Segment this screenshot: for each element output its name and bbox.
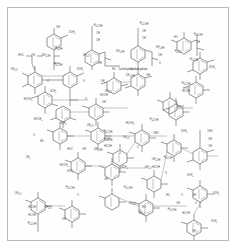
chemical-group-label: H2COH <box>104 137 113 142</box>
chemical-group-label: H2COH <box>140 21 149 26</box>
chemical-group-label: O <box>181 193 183 197</box>
chemical-group-label: H2COH <box>168 207 177 212</box>
chemical-group-label: OH <box>56 25 60 29</box>
chemical-group-label: CH <box>208 137 212 141</box>
aromatic-ring <box>187 220 201 236</box>
chemical-group-label: O <box>195 201 197 205</box>
chemical-group-label: HOCH2 <box>126 121 135 125</box>
chemical-group-label: CH <box>176 201 180 205</box>
aromatic-ring <box>167 140 181 156</box>
lignin-structure-diagram: OHOCH3CH2OHHOCCHCH2OHH2COHCH3OOCH3OOCH2O… <box>8 8 228 240</box>
aromatic-ring <box>56 106 70 122</box>
chemical-group-label: CH3O <box>129 201 136 206</box>
aromatic-ring <box>135 130 149 146</box>
aromatic-ring <box>38 92 52 108</box>
chemical-group-label: HCOH <box>104 144 112 148</box>
chemical-group-label: CH2OH <box>116 49 125 54</box>
chemical-group-label: OCH3 <box>77 67 84 71</box>
chemical-group-label: OCH3 <box>213 191 220 195</box>
aromatic-ring <box>169 104 183 120</box>
aromatic-ring <box>189 82 203 98</box>
chemical-group-label: HCOH <box>28 205 36 209</box>
aromatic-ring <box>131 46 145 62</box>
chemical-group-label: HCOH <box>182 211 190 215</box>
chemical-group-label: O <box>83 79 85 83</box>
chemical-group-label: CH <box>82 147 86 151</box>
chemical-group-label: HCOH <box>28 213 36 217</box>
chemical-group-label: CH3O <box>45 205 52 210</box>
chemical-group-label: CHO <box>207 129 213 133</box>
chemical-group-label: CH2OH <box>42 53 51 58</box>
figure-frame: OHOCH3CH2OHHOCCHCH2OHH2COHCH3OOCH3OOCH2O… <box>7 7 229 241</box>
chemical-group-label: H2COH <box>104 129 113 134</box>
chemical-group-label: CH2OH <box>94 147 103 152</box>
chemical-group-label: CH <box>196 40 200 44</box>
chemical-group-label: O <box>159 61 161 65</box>
carbohydrate-label: Carbohydrate <box>130 67 148 71</box>
chemical-group-label: OCH3 <box>50 89 57 93</box>
chemical-group-label: CH <box>208 144 212 148</box>
chemical-group-label: CH <box>192 193 196 197</box>
chemical-group-label: CH3O <box>83 53 90 58</box>
chemical-group-label: O <box>85 97 87 101</box>
chemical-group-label: O <box>165 171 167 175</box>
chemical-group-label: CH <box>142 29 146 33</box>
aromatic-ring <box>28 72 42 88</box>
chemical-group-label: H2COH <box>164 155 173 160</box>
chemical-group-label: CH2OH <box>152 157 161 162</box>
bond-network <box>22 26 218 240</box>
chemical-group-label: CH <box>31 53 35 57</box>
chemical-group-label: CH2OH <box>156 45 165 50</box>
chemical-group-label: OCH3 <box>67 169 74 173</box>
chemical-group-label: CH3O <box>139 211 146 216</box>
chemical-group-label: CH2OH <box>126 73 135 78</box>
chemical-group-label: HOCH2 <box>34 117 43 121</box>
chemical-group-label: CH3O <box>87 123 94 128</box>
chemical-group-label: OH <box>98 61 102 65</box>
aromatic-ring <box>193 148 207 164</box>
chemical-group-label: HOC <box>18 53 24 57</box>
chemical-group-label: CH3O <box>145 165 152 170</box>
aromatic-ring <box>85 50 99 66</box>
chemical-group-label: OH <box>192 229 196 233</box>
chemical-group-label: OCH3 <box>211 219 218 223</box>
chemical-group-label: H2COH <box>182 81 191 86</box>
chemical-group-label: HOC <box>67 147 73 151</box>
chemical-group-label: O <box>47 79 49 83</box>
chemical-group-label: CH3O <box>15 191 22 196</box>
chemical-group-label: HC <box>40 139 44 143</box>
chemical-group-label: H2COH <box>190 57 199 62</box>
chemical-group-label: OCH3 <box>60 121 67 125</box>
aromatic-ring <box>105 194 119 210</box>
chemical-group-label: O <box>119 151 121 155</box>
chemical-group-label: H2COH <box>28 221 37 226</box>
chemical-group-label: H2COH <box>150 117 159 122</box>
chemical-group-label: HCOH <box>100 93 108 97</box>
chemical-group-label: CHO <box>153 131 159 135</box>
aromatic-ring <box>53 128 67 144</box>
chemical-group-label: OCH3 <box>121 165 128 169</box>
chemical-group-label: HO <box>142 205 146 209</box>
chemical-group-label: HCOH <box>152 165 160 169</box>
chemical-group-label: CH3O <box>123 135 130 140</box>
chemical-group-label: OH <box>62 217 66 221</box>
aromatic-ring <box>89 104 103 120</box>
chemical-group-label: CH2 <box>101 79 106 83</box>
chemical-group-label: CH3O <box>105 89 112 94</box>
chemical-group-label: OH <box>104 177 108 181</box>
aromatic-ring <box>147 176 161 192</box>
chemical-group-label: HC <box>112 67 116 71</box>
aromatic-ring <box>63 72 77 88</box>
chemical-group-label: OH <box>102 100 106 104</box>
chemical-group-label: H2COH <box>124 185 133 190</box>
chemical-group-label: HOCH2 <box>60 163 69 167</box>
chemical-group-label: HCOH <box>182 89 190 93</box>
aromatic-ring <box>65 206 79 222</box>
chemical-group-label: O <box>33 133 35 137</box>
chemical-group-label: H2COH <box>94 23 103 28</box>
chemical-group-label: CH <box>142 36 146 40</box>
chemical-group-label: CH2 <box>26 155 31 159</box>
chemical-group-label: OCH3 <box>209 65 216 69</box>
chemical-group-label: H2COH <box>194 32 203 37</box>
chemical-group-label: OH <box>146 73 150 77</box>
